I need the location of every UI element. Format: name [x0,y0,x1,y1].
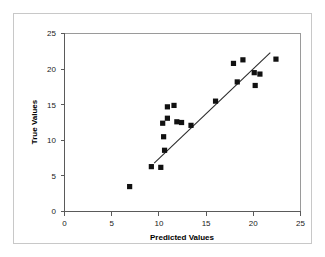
y-axis-title: True Values [30,99,39,144]
data-point [252,70,257,75]
y-tick-label-10: 10 [47,136,56,145]
data-point [127,184,132,189]
data-point [165,104,170,109]
data-point [257,71,262,76]
scatter-plot: 0 5 10 15 20 25 0 5 10 15 20 25 Predicte… [0,0,325,257]
data-point [171,103,176,108]
x-axis-ticks [65,212,301,216]
x-tick-label-15: 15 [202,219,211,228]
data-point [231,61,236,66]
y-tick-label-25: 25 [47,29,56,38]
x-axis-tick-labels: 0 5 10 15 20 25 [62,219,305,228]
x-tick-label-20: 20 [249,219,258,228]
figure-root: 0 5 10 15 20 25 0 5 10 15 20 25 Predicte… [0,0,325,257]
y-tick-label-5: 5 [52,172,57,181]
data-point [160,121,165,126]
data-point [158,165,163,170]
x-tick-label-5: 5 [109,219,114,228]
y-tick-label-15: 15 [47,101,56,110]
data-point [213,99,218,104]
data-point [240,57,245,62]
data-point [162,148,167,153]
data-point [149,164,154,169]
x-tick-label-10: 10 [154,219,163,228]
data-point [179,120,184,125]
data-point [165,116,170,121]
data-point-markers [127,57,279,190]
x-axis-title: Predicted Values [150,233,215,242]
x-tick-label-25: 25 [296,219,305,228]
data-point [235,79,240,84]
y-axis-tick-labels: 0 5 10 15 20 25 [47,29,56,216]
data-point [188,123,193,128]
data-point [273,57,278,62]
y-tick-label-20: 20 [47,65,56,74]
y-axis-ticks [61,34,65,212]
data-point [174,119,179,124]
data-point [253,83,258,88]
x-tick-label-0: 0 [62,219,67,228]
data-point [161,134,166,139]
y-tick-label-0: 0 [52,207,57,216]
